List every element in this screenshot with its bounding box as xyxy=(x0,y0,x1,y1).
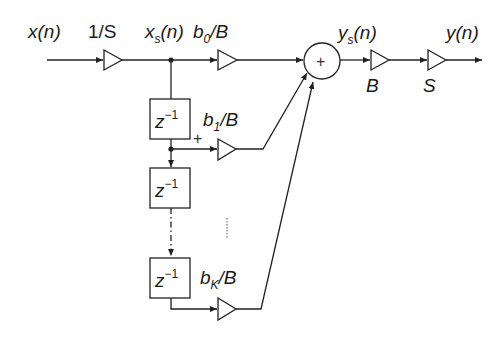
coef-b0-label: b0/B xyxy=(193,21,229,46)
input-label: x(n) xyxy=(27,21,61,42)
fir-scaling-diagram: + + z−1 z−1 z−1 x(n) 1/S xs(n) b0/B ys(n… xyxy=(0,0,501,342)
coef-b1-label: b1/B xyxy=(203,109,239,134)
scaled-output-label: ys(n) xyxy=(336,22,377,47)
scaled-input-label: xs(n) xyxy=(144,21,184,46)
gain-B-amplifier xyxy=(371,50,389,70)
gain-B-label: B xyxy=(366,75,379,96)
tap-1: + xyxy=(171,73,307,160)
gain-1-over-s-amplifier xyxy=(104,50,122,70)
gain-bk-amplifier xyxy=(218,298,236,320)
tap-plus-sign: + xyxy=(193,130,202,147)
main-path: + xyxy=(47,43,482,79)
coef-bk-label: bK/B xyxy=(200,267,237,292)
gain-S-label: S xyxy=(423,75,436,96)
bk-to-sum-wire xyxy=(236,82,313,309)
summer-plus-sign: + xyxy=(316,53,325,70)
tapk-wire xyxy=(171,298,217,309)
input-scale-label: 1/S xyxy=(88,21,117,42)
gain-b1-amplifier xyxy=(218,139,236,160)
gain-b0-amplifier xyxy=(218,50,237,70)
tap-k xyxy=(171,82,313,320)
output-label: y(n) xyxy=(444,22,479,43)
gain-S-amplifier xyxy=(428,50,446,70)
b1-to-sum-wire xyxy=(236,73,307,149)
